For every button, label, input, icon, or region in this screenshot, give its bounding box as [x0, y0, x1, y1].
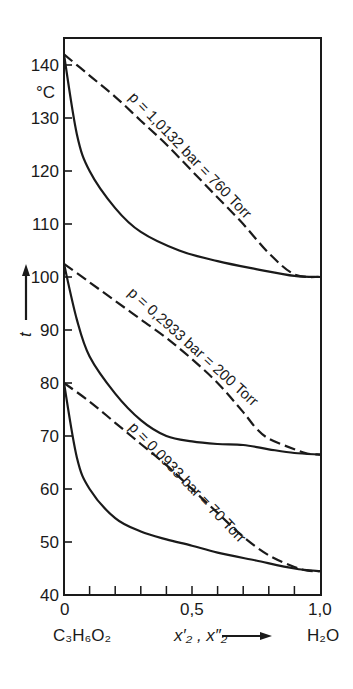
y-tick-label: 70 — [40, 427, 59, 446]
phase-diagram-chart: 405060708090100110120130140 °C t 0 0,5 1… — [0, 0, 353, 689]
x-tick-label-0: 0 — [60, 600, 69, 619]
dew-curve-3 — [64, 264, 320, 455]
y-tick-label: 130 — [31, 109, 59, 128]
boiling-curve-2 — [64, 264, 320, 455]
y-tick-label: 40 — [40, 586, 59, 605]
y-tick-label: 110 — [32, 215, 59, 234]
y-axis-symbol: t — [16, 331, 35, 337]
y-axis-arrowhead-icon — [22, 264, 30, 276]
x-axis-arrowhead-icon — [260, 632, 272, 640]
y-tick-label: 80 — [40, 374, 59, 393]
y-tick-label: 60 — [40, 480, 59, 499]
y-tick-label: 140 — [31, 56, 59, 75]
curve-label-200-torr: p = 0,2933 bar = 200 Torr — [125, 284, 262, 410]
x-tick-label-0-5: 0,5 — [180, 600, 204, 619]
x-left-component: C₃H₆O₂ — [53, 626, 111, 645]
y-tick-label: 50 — [40, 533, 59, 552]
x-axis-symbol: x′₂ , x″₂ — [173, 626, 228, 645]
plot-frame — [64, 38, 321, 595]
y-axis-ticks: 405060708090100110120130140 — [31, 56, 72, 605]
y-tick-label: 120 — [31, 162, 59, 181]
curve-label-760-torr: p = 1,0132 bar = 760 Torr — [126, 88, 256, 221]
x-axis-ticks — [90, 586, 295, 595]
x-tick-label-1-0: 1,0 — [308, 600, 332, 619]
x-right-component: H₂O — [307, 626, 339, 645]
curve-label-70-torr: p = 0,0933 bar = 70 Torr — [126, 418, 250, 545]
y-tick-label: 100 — [31, 268, 59, 287]
y-tick-label: 90 — [40, 321, 59, 340]
y-unit-label: °C — [36, 83, 55, 102]
